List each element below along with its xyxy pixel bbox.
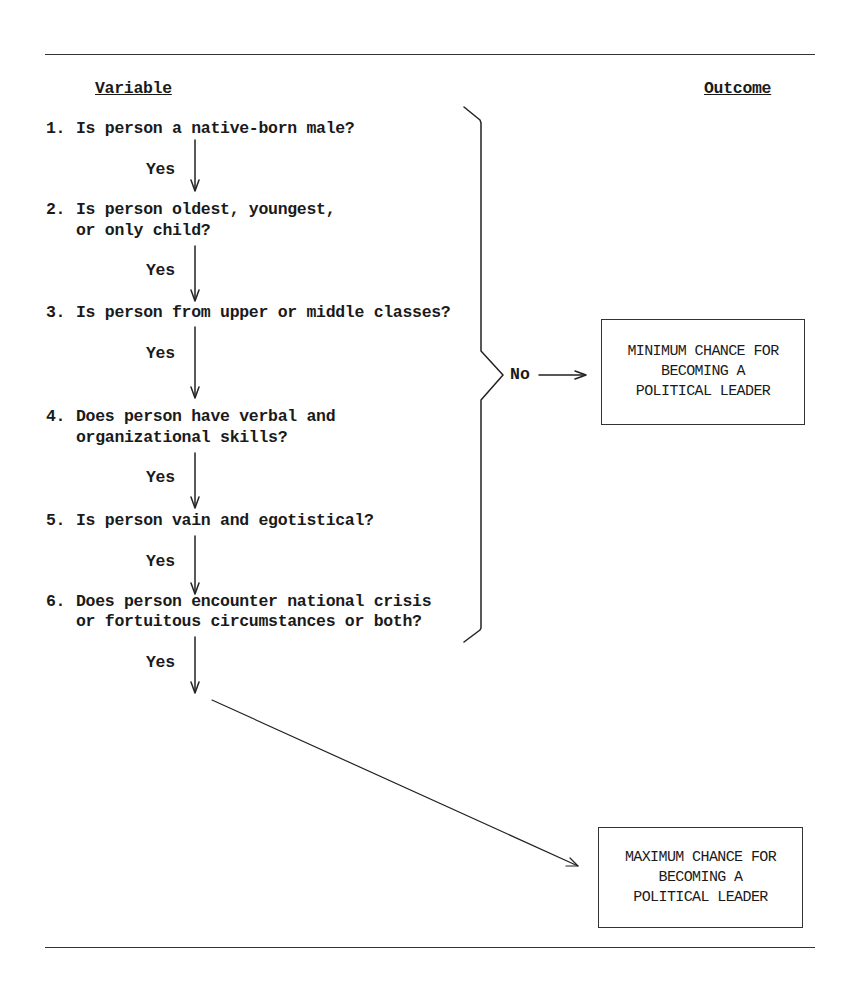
- outcome-line: MINIMUM CHANCE FOR: [627, 342, 778, 362]
- right-arrow-icon: [539, 371, 586, 379]
- down-arrow-icon: [191, 637, 199, 693]
- down-arrow-icon: [191, 246, 199, 301]
- down-arrow-icon: [191, 327, 199, 398]
- maximum-chance-box: MAXIMUM CHANCE FOR BECOMING A POLITICAL …: [598, 827, 803, 928]
- outcome-line: BECOMING A: [661, 362, 745, 382]
- down-arrow-icon: [191, 536, 199, 594]
- outcome-line: POLITICAL LEADER: [633, 888, 767, 908]
- diagonal-arrow-icon: [212, 700, 578, 866]
- outcome-line: POLITICAL LEADER: [636, 382, 770, 402]
- brace-icon: [464, 107, 503, 642]
- minimum-chance-box: MINIMUM CHANCE FOR BECOMING A POLITICAL …: [601, 319, 805, 425]
- outcome-line: MAXIMUM CHANCE FOR: [625, 848, 776, 868]
- down-arrow-icon: [191, 453, 199, 508]
- outcome-line: BECOMING A: [658, 868, 742, 888]
- down-arrow-icon: [191, 140, 199, 191]
